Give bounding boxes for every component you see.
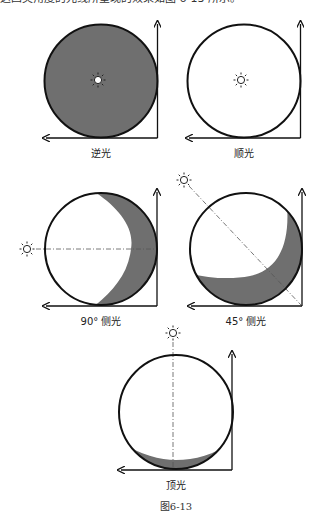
- figure-caption: 图6-13: [160, 498, 192, 513]
- sun-icon: [166, 326, 181, 341]
- diagram-side-light-45: [177, 173, 321, 321]
- diagram-label-side-light-45: 45° 侧光: [226, 313, 267, 328]
- diagram-label-front-light: 顺光: [234, 145, 254, 160]
- diagram-label-back-light: 逆光: [91, 145, 111, 160]
- diagram-side-light-90: [20, 190, 171, 308]
- diagram-front-light: [188, 24, 301, 138]
- diagram-top-light: [118, 326, 234, 476]
- lighting-angle-figure: [0, 0, 322, 524]
- diagram-label-top-light: 顶光: [166, 477, 186, 492]
- sun-icon: [177, 173, 192, 188]
- sun-icon: [20, 242, 35, 257]
- diagram-label-side-light-90: 90° 侧光: [81, 313, 122, 328]
- diagram-back-light: [45, 24, 158, 138]
